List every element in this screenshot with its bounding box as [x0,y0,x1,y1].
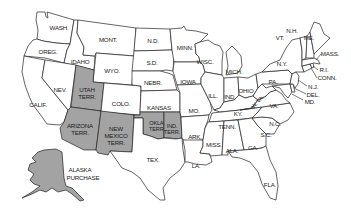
label-ky: KY. [234,110,243,117]
label-nm-1: NEW [109,125,123,132]
label-la: LA. [192,162,201,169]
label-nd: N.D. [147,37,159,44]
label-nev: NEV. [53,86,67,93]
label-ariz-1: ARIZONA [67,122,94,129]
label-nc: N.C. [269,120,281,127]
label-mich: MICH. [226,68,243,75]
label-utah-2: TERR. [78,93,96,100]
label-sc: S.C. [260,131,272,138]
label-nm-2: MEXICO [104,132,128,139]
label-tex: TEX. [147,156,160,163]
label-minn: MINN. [177,44,194,51]
label-ohio: OHIO [238,87,253,94]
label-wash: WASH. [49,24,69,31]
label-mont: MONT. [99,36,118,43]
label-nj: N.J. [308,83,319,90]
label-calif: CALIF. [29,101,47,108]
label-ny: N.Y. [277,60,288,67]
label-mass: MASS. [321,50,340,57]
label-kansas: KANSAS [147,104,171,111]
label-nm-3: TERR. [107,139,125,146]
label-del: DEL. [307,91,320,98]
label-vt: VT. [276,34,285,41]
state-florida [228,146,278,200]
label-ariz-2: TERR. [71,129,89,136]
label-idaho: IDAHO [71,58,90,65]
label-indiana: IND. [224,93,236,100]
label-okla-2: TERR. [149,126,165,132]
label-ark: ARK. [188,133,202,140]
label-ill: ILL. [208,92,218,99]
label-md: MD. [305,98,316,105]
label-oreg: OREG. [39,48,58,55]
label-nh: N.H. [286,27,298,34]
us-territories-map: WASH. OREG. CALIF. IDAHO NEV. MONT. WYO.… [0,0,351,218]
label-mo: MO. [188,107,200,114]
label-iowa: IOWA [180,78,197,85]
label-sd: S.D. [146,59,158,66]
label-utah-1: UTAH [79,86,95,93]
state-colorado [101,83,141,115]
label-colo: COLO. [112,100,131,107]
label-alaska-1: ALASKA [69,166,93,173]
label-miss: MISS. [206,141,222,148]
label-pa: PA. [269,78,278,85]
label-alaska-2: PURCHASE [67,174,100,181]
label-va: VA. [270,102,279,109]
label-ri: R.I. [320,66,329,73]
label-conn: CONN. [318,74,337,81]
label-ala: ALA. [226,147,239,154]
label-nebr: NEBR. [144,79,162,86]
state-new-york [262,38,304,74]
label-me: ME. [304,34,315,41]
label-ind-terr-2: TERR. [164,129,180,135]
label-fla: FLA. [264,181,277,188]
label-wisc: WISC. [197,58,214,65]
label-ga: GA. [248,144,259,151]
label-tenn: TENN. [218,123,236,130]
label-wyo: WYO. [104,67,120,74]
